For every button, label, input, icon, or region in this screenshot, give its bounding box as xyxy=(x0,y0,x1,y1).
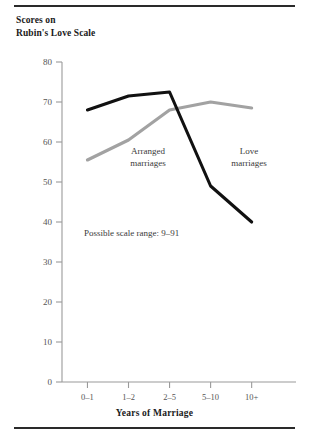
series-label-love-line-2: marriages xyxy=(218,158,280,170)
y-axis-tick-label: 80 xyxy=(22,58,52,67)
y-axis-tick-label: 20 xyxy=(22,298,52,307)
series-label-love-line-1: Love xyxy=(218,146,280,158)
scale-range-note: Possible scale range: 9–91 xyxy=(84,228,179,238)
series-label-love-marriages: Love marriages xyxy=(218,146,280,169)
y-axis-tick-label: 50 xyxy=(22,178,52,187)
x-axis-tick-label: 0–1 xyxy=(64,393,110,402)
y-axis-tick-label: 0 xyxy=(22,378,52,387)
series-label-arranged-marriages: Arranged marriages xyxy=(112,146,184,169)
y-axis-tick-label: 70 xyxy=(22,98,52,107)
series-label-arranged-line-1: Arranged xyxy=(112,146,184,158)
y-axis-ticks xyxy=(56,62,62,382)
y-axis-tick-label: 10 xyxy=(22,338,52,347)
x-axis-ticks xyxy=(87,382,251,388)
y-axis-tick-label: 30 xyxy=(22,258,52,267)
x-axis-tick-label: 5–10 xyxy=(188,393,234,402)
x-axis-tick-label: 10+ xyxy=(229,393,275,402)
x-axis-title: Years of Marriage xyxy=(0,408,309,418)
figure-container: Scores on Rubin's Love Scale 01020304050… xyxy=(0,0,309,444)
x-axis-tick-label: 2–5 xyxy=(147,393,193,402)
y-axis-tick-label: 60 xyxy=(22,138,52,147)
series-label-arranged-line-2: marriages xyxy=(112,158,184,170)
y-axis-tick-label: 40 xyxy=(22,218,52,227)
x-axis-tick-label: 1–2 xyxy=(106,393,152,402)
